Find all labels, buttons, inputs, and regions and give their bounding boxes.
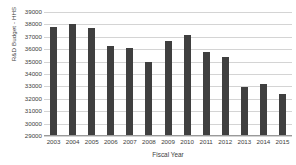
bar-slot [82,12,101,136]
bar [203,52,210,136]
bar-slot [178,12,197,136]
x-tick-label: 2015 [273,138,292,148]
x-axis-title: Fiscal Year [44,151,292,159]
gridline [44,136,292,137]
x-tick-label: 2013 [235,138,254,148]
bar [107,46,114,136]
bar [88,28,95,136]
x-tick-label: 2006 [101,138,120,148]
bar-series [44,12,292,136]
bar-slot [101,12,120,136]
x-tick-label: 2008 [139,138,158,148]
y-tick-label: 32000 [14,96,42,102]
y-tick-label: 29000 [14,133,42,139]
y-tick-label: 34000 [14,71,42,77]
bar-slot [235,12,254,136]
bar-slot [139,12,158,136]
x-tick-label: 2010 [178,138,197,148]
bar-slot [158,12,177,136]
bar [145,62,152,136]
bar [126,48,133,136]
y-tick-label: 37000 [14,34,42,40]
y-axis-tick-labels: 3900038000370003600035000340003300032000… [14,12,42,136]
x-tick-label: 2003 [44,138,63,148]
bar-slot [197,12,216,136]
x-axis-line [44,135,292,136]
bar [50,27,57,136]
plot-area [44,12,292,136]
bar-chart: R&D Budget - HHS 39000380003700036000350… [0,0,296,165]
x-tick-label: 2009 [158,138,177,148]
x-tick-label: 2007 [120,138,139,148]
bar-slot [254,12,273,136]
bar [184,35,191,136]
x-tick-label: 2014 [254,138,273,148]
x-axis-tick-labels: 2003200420052006200720082009201020112012… [44,138,292,148]
y-tick-label: 39000 [14,9,42,15]
bar-slot [44,12,63,136]
y-tick-label: 35000 [14,59,42,65]
bar [165,41,172,136]
bar-slot [120,12,139,136]
y-tick-label: 33000 [14,83,42,89]
bar-slot [216,12,235,136]
y-tick-label: 38000 [14,21,42,27]
bar [260,84,267,136]
x-tick-label: 2011 [197,138,216,148]
bar [69,24,76,136]
y-tick-label: 30000 [14,121,42,127]
y-tick-label: 31000 [14,108,42,114]
bar-slot [63,12,82,136]
x-tick-label: 2004 [63,138,82,148]
bar [222,57,229,136]
x-tick-label: 2012 [216,138,235,148]
bar-slot [273,12,292,136]
bar [279,94,286,136]
bar [241,87,248,136]
y-tick-label: 36000 [14,46,42,52]
x-tick-label: 2005 [82,138,101,148]
